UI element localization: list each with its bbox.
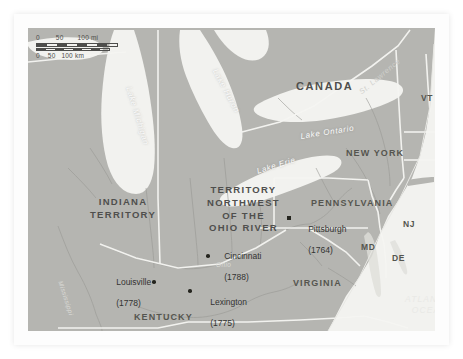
city-marker-lexington — [188, 289, 192, 293]
map-geography — [28, 28, 435, 331]
city-marker-louisville — [152, 280, 156, 284]
scale-miles-bar — [36, 43, 118, 47]
scale-km-labels: 0 50 100 km — [36, 52, 118, 60]
historical-map: 0 50 100 mi 0 50 100 km CANADA INDIANA T… — [28, 28, 435, 331]
scale-km-bar — [36, 48, 110, 52]
map-screenshot: 0 50 100 mi 0 50 100 km CANADA INDIANA T… — [0, 0, 463, 359]
city-marker-cincinnati — [206, 254, 210, 258]
scale-miles-labels: 0 50 100 mi — [36, 34, 118, 42]
scale-bar: 0 50 100 mi 0 50 100 km — [36, 34, 118, 60]
city-marker-pittsburgh — [287, 216, 291, 220]
